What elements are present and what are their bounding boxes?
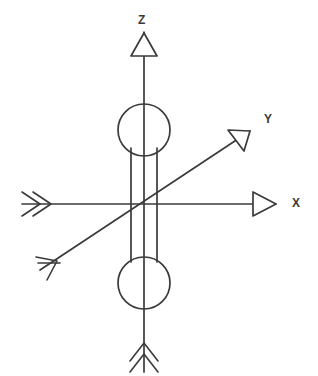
- y-axis-label: Y: [264, 113, 272, 125]
- y-axis-line: [40, 131, 250, 270]
- x-axis-positive-arrowhead-icon: [253, 192, 276, 216]
- y-axis-positive-arrowhead-icon: [228, 130, 250, 151]
- y-axis-negative-fletching-icon: [36, 257, 60, 280]
- axis-diagram-svg: [0, 0, 318, 376]
- axis-diagram-canvas: Z X Y: [0, 0, 318, 376]
- z-axis-label: Z: [138, 14, 146, 26]
- x-axis-label: X: [292, 197, 300, 209]
- x-axis-group: [22, 192, 276, 216]
- z-axis-positive-arrowhead-icon: [131, 33, 157, 56]
